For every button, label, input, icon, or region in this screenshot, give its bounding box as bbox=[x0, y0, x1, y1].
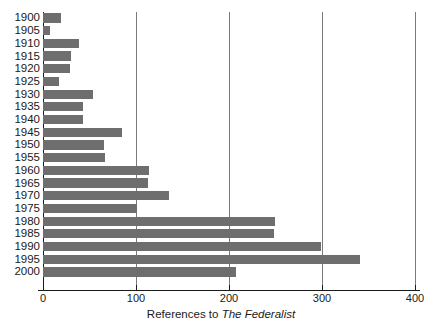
bar-1970 bbox=[43, 191, 169, 200]
bar-1915 bbox=[43, 51, 71, 60]
y-axis-label-1995: 1995 bbox=[2, 253, 40, 266]
y-axis-label-1985: 1985 bbox=[2, 227, 40, 240]
bar-row bbox=[43, 12, 415, 25]
x-tick-label-300: 300 bbox=[313, 292, 331, 305]
bar-chart: 1900190519101915192019251930193519401945… bbox=[0, 0, 442, 332]
gridline-400 bbox=[415, 12, 416, 290]
bar-1930 bbox=[43, 90, 93, 99]
x-tick-label-400: 400 bbox=[406, 292, 424, 305]
bar-2000 bbox=[43, 267, 236, 276]
bar-row bbox=[43, 253, 415, 266]
x-tick-400 bbox=[415, 285, 416, 291]
bar-row bbox=[43, 101, 415, 114]
bar-row bbox=[43, 88, 415, 101]
y-axis-label-1955: 1955 bbox=[2, 151, 40, 164]
bar-row bbox=[43, 152, 415, 165]
bar-row bbox=[43, 215, 415, 228]
bar-1980 bbox=[43, 217, 275, 226]
y-axis-label-1945: 1945 bbox=[2, 126, 40, 139]
bar-row bbox=[43, 190, 415, 203]
y-axis-label-1960: 1960 bbox=[2, 164, 40, 177]
y-axis-label-1935: 1935 bbox=[2, 100, 40, 113]
bar-row bbox=[43, 139, 415, 152]
x-tick-label-100: 100 bbox=[127, 292, 145, 305]
x-tick-label-0: 0 bbox=[40, 292, 46, 305]
y-axis-label-1915: 1915 bbox=[2, 50, 40, 63]
bar-row bbox=[43, 63, 415, 76]
bar-1975 bbox=[43, 204, 137, 213]
bar-row bbox=[43, 37, 415, 50]
bar-row bbox=[43, 164, 415, 177]
bar-1985 bbox=[43, 229, 274, 238]
y-axis-label-1920: 1920 bbox=[2, 62, 40, 75]
bar-1935 bbox=[43, 102, 83, 111]
y-axis-label-1910: 1910 bbox=[2, 37, 40, 50]
bar-row bbox=[43, 266, 415, 279]
bar-1960 bbox=[43, 166, 149, 175]
y-axis-label-1980: 1980 bbox=[2, 215, 40, 228]
y-axis-label-1930: 1930 bbox=[2, 88, 40, 101]
y-axis-label-1990: 1990 bbox=[2, 240, 40, 253]
y-axis-label-1965: 1965 bbox=[2, 177, 40, 190]
x-tick-100 bbox=[136, 285, 137, 291]
x-axis-title: References to The Federalist bbox=[0, 308, 442, 320]
y-axis-label-1970: 1970 bbox=[2, 189, 40, 202]
bar-1920 bbox=[43, 64, 70, 73]
bar-row bbox=[43, 76, 415, 89]
y-axis-label-1975: 1975 bbox=[2, 202, 40, 215]
bar-row bbox=[43, 203, 415, 216]
plot-area bbox=[43, 12, 415, 290]
bar-1955 bbox=[43, 153, 105, 162]
bar-1965 bbox=[43, 178, 148, 187]
x-tick-label-200: 200 bbox=[220, 292, 238, 305]
x-axis-title-italic: The Federalist bbox=[222, 308, 296, 320]
bar-1995 bbox=[43, 255, 360, 264]
bar-1925 bbox=[43, 77, 59, 86]
x-axis-title-prefix: References to bbox=[147, 308, 222, 320]
bar-row bbox=[43, 228, 415, 241]
bar-row bbox=[43, 25, 415, 38]
bar-row bbox=[43, 126, 415, 139]
y-axis-label-1905: 1905 bbox=[2, 24, 40, 37]
bar-1940 bbox=[43, 115, 83, 124]
y-axis-label-1950: 1950 bbox=[2, 138, 40, 151]
y-axis-label-1940: 1940 bbox=[2, 113, 40, 126]
bar-1990 bbox=[43, 242, 321, 251]
x-tick-300 bbox=[322, 285, 323, 291]
y-axis-label-1900: 1900 bbox=[2, 11, 40, 24]
x-tick-200 bbox=[229, 285, 230, 291]
bar-1900 bbox=[43, 13, 61, 22]
bar-1950 bbox=[43, 140, 104, 149]
bar-row bbox=[43, 241, 415, 254]
bar-1910 bbox=[43, 39, 79, 48]
bar-row bbox=[43, 114, 415, 127]
bar-row bbox=[43, 177, 415, 190]
bar-row bbox=[43, 50, 415, 63]
bar-1945 bbox=[43, 128, 122, 137]
x-tick-0 bbox=[43, 285, 44, 291]
bar-1905 bbox=[43, 26, 50, 35]
y-axis-label-1925: 1925 bbox=[2, 75, 40, 88]
y-axis-label-2000: 2000 bbox=[2, 265, 40, 278]
